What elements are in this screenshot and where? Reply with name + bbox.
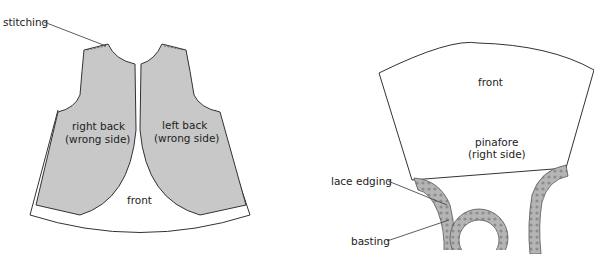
- right-back-label: right back: [72, 120, 126, 132]
- front-label: front: [127, 194, 152, 206]
- stitching-label: stitching: [3, 16, 48, 28]
- lace-edging-right: [529, 165, 568, 254]
- basting-label: basting: [351, 235, 390, 247]
- front-label-right: front: [478, 76, 503, 88]
- left-panel: stitching right back (wrong side) left b…: [3, 16, 252, 233]
- right-back-sublabel: (wrong side): [65, 133, 130, 145]
- basting-leader: [387, 220, 449, 241]
- pinafore-label: pinafore: [475, 136, 518, 148]
- lace-edging-label: lace edging: [331, 175, 392, 187]
- left-back-label: left back: [162, 119, 208, 131]
- lace-edging-left: [414, 178, 455, 254]
- pinafore-sublabel: (right side): [468, 148, 526, 160]
- left-back-sublabel: (wrong side): [154, 132, 219, 144]
- right-panel: front pinafore (right side) lace edging …: [331, 42, 594, 254]
- stitching-leader: [44, 22, 106, 46]
- sewing-diagram: stitching right back (wrong side) left b…: [0, 0, 594, 254]
